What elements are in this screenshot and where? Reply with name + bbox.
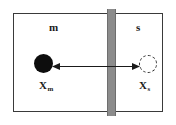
species-marker-filled-circle [34,54,53,73]
species-label-xm: Xm [39,80,53,91]
compartment-label-s: s [136,22,140,33]
species-label-xs: Xs [139,80,150,91]
species-marker-dashed-circle [139,55,157,73]
species-symbol-x-left: X [39,79,47,91]
species-subscript-m: m [47,85,53,93]
species-subscript-s: s [147,85,150,93]
species-symbol-x-right: X [139,79,147,91]
bidirectional-transport-arrow [52,62,140,65]
compartment-label-m: m [49,22,58,33]
diagram-canvas: m s Xm Xs [0,0,176,125]
